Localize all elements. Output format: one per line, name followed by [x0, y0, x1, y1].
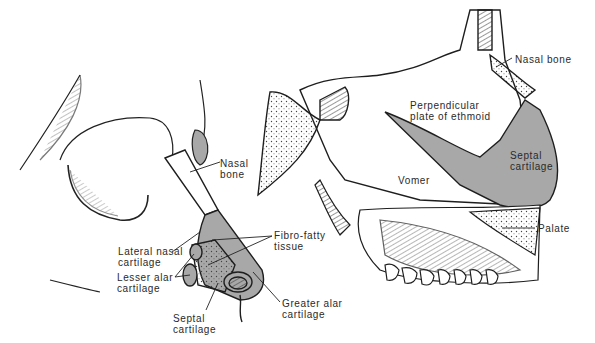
label-septal-cartilage-right: Septal cartilage — [510, 150, 553, 172]
label-nasal-bone-right: Nasal bone — [515, 54, 572, 65]
anatomy-illustration — [0, 0, 595, 343]
label-vomer: Vomer — [398, 175, 430, 186]
label-greater-alar-cartilage: Greater alar cartilage — [282, 298, 343, 320]
label-septal-cartilage-left: Septal cartilage — [173, 313, 216, 335]
nasal-anatomy-figure: Nasal bone Lateral nasal cartilage Lesse… — [0, 0, 595, 343]
label-lateral-nasal-cartilage: Lateral nasal cartilage — [118, 246, 183, 268]
label-lesser-alar-cartilage: Lesser alar cartilage — [117, 272, 173, 294]
label-palate: Palate — [538, 223, 570, 234]
label-nasal-bone-left: Nasal bone — [220, 158, 249, 180]
label-perpendicular-plate-of-ethmoid: Perpendicular plate of ethmoid — [410, 100, 491, 122]
label-fibro-fatty-tissue: Fibro-fatty tissue — [274, 230, 326, 252]
left-nose — [165, 150, 263, 322]
